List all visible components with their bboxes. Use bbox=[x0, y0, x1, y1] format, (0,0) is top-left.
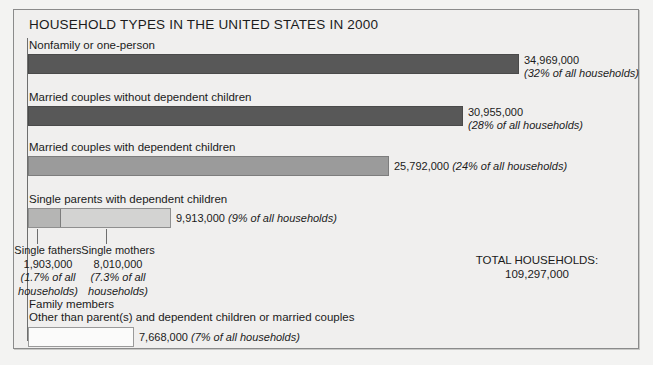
bar-label-nonfamily: Nonfamily or one-person bbox=[29, 39, 155, 51]
bar-nonfamily[interactable] bbox=[28, 54, 519, 74]
bar-value-married-without-children: 30,955,000 (28% of all households) bbox=[468, 106, 583, 132]
bar-segment-single-fathers[interactable] bbox=[29, 209, 61, 227]
annotation-single-mothers-percent-line2: households) bbox=[73, 285, 163, 299]
leader-line-single-fathers bbox=[37, 229, 38, 244]
bar-value-family-members: 7,668,000 (7% of all households) bbox=[139, 331, 300, 343]
chart-title: HOUSEHOLD TYPES IN THE UNITED STATES IN … bbox=[29, 17, 378, 32]
annotation-single-mothers-percent-line1: (7.3% of all bbox=[73, 271, 163, 285]
total-households-label: TOTAL HOUSEHOLDS: bbox=[476, 254, 598, 266]
bar-married-with-children[interactable] bbox=[28, 156, 389, 176]
bar-value-married-with-children: 25,792,000 (24% of all households) bbox=[394, 160, 567, 172]
annotation-single-mothers-name: Single mothers bbox=[73, 244, 163, 258]
leader-line-single-mothers bbox=[106, 229, 107, 244]
bar-sublabel-family-members: Other than parent(s) and dependent child… bbox=[29, 311, 354, 323]
bar-segment-single-mothers[interactable] bbox=[62, 209, 170, 227]
bar-value-nonfamily: 34,969,000 (32% of all households) bbox=[524, 54, 639, 80]
bar-label-family-members: Family members bbox=[29, 298, 114, 310]
bar-married-without-children[interactable] bbox=[28, 106, 463, 126]
bar-value-percent-single-parents: (9% of all households) bbox=[228, 212, 337, 224]
bar-value-number-married-with-children: 25,792,000 bbox=[394, 160, 449, 172]
total-households-block: TOTAL HOUSEHOLDS: 109,297,000 bbox=[452, 253, 622, 281]
chart-frame: HOUSEHOLD TYPES IN THE UNITED STATES IN … bbox=[13, 9, 639, 349]
bar-value-percent-married-with-children: (24% of all households) bbox=[452, 160, 567, 172]
bar-family-members[interactable] bbox=[28, 327, 134, 347]
bar-label-single-parents: Single parents with dependent children bbox=[29, 193, 227, 205]
bar-value-percent-married-without-children: (28% of all households) bbox=[468, 119, 583, 131]
bar-single-parents[interactable] bbox=[28, 208, 171, 228]
bar-value-number-married-without-children: 30,955,000 bbox=[468, 106, 523, 118]
bar-value-percent-nonfamily: (32% of all households) bbox=[524, 67, 639, 79]
bar-value-number-family-members: 7,668,000 bbox=[139, 331, 188, 343]
annotation-single-mothers-value: 8,010,000 bbox=[73, 258, 163, 272]
bar-value-percent-family-members: (7% of all households) bbox=[191, 331, 300, 343]
total-households-value: 109,297,000 bbox=[505, 268, 569, 280]
bar-value-number-nonfamily: 34,969,000 bbox=[524, 54, 579, 66]
bar-label-married-without-children: Married couples without dependent childr… bbox=[29, 91, 251, 103]
bar-value-single-parents: 9,913,000 (9% of all households) bbox=[176, 212, 337, 224]
bar-value-number-single-parents: 9,913,000 bbox=[176, 212, 225, 224]
bar-label-married-with-children: Married couples with dependent children bbox=[29, 141, 235, 153]
annotation-single-mothers: Single mothers 8,010,000 (7.3% of all ho… bbox=[73, 244, 163, 298]
